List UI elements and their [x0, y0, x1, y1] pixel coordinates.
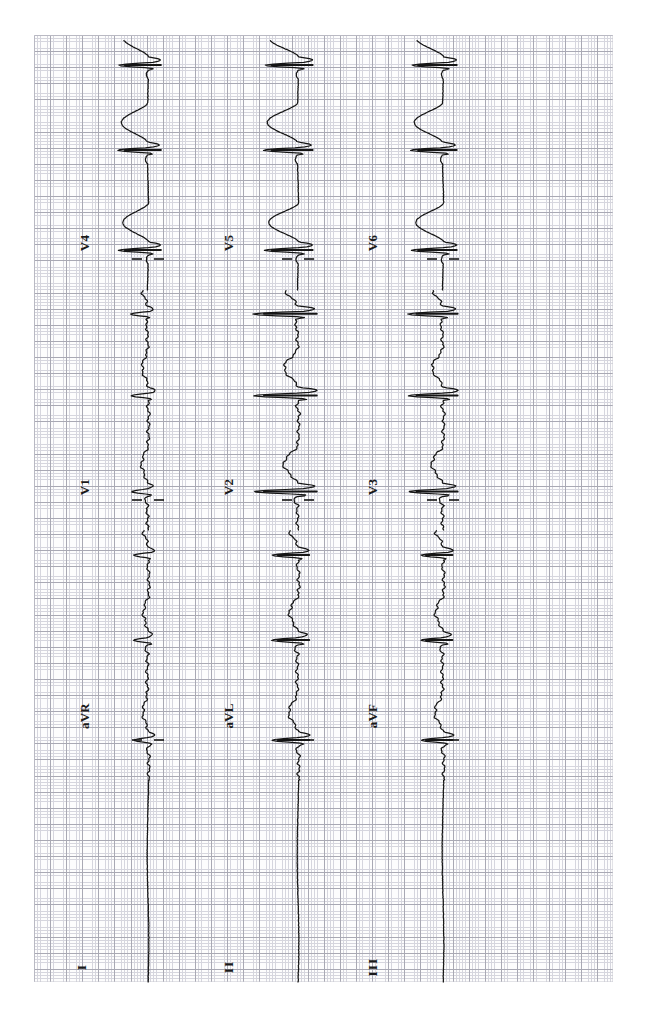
- ecg-grid-paper: [34, 35, 613, 982]
- ecg-page: IIIIIIaVRaVLaVFV1V2V3V4V5V6: [0, 0, 649, 1019]
